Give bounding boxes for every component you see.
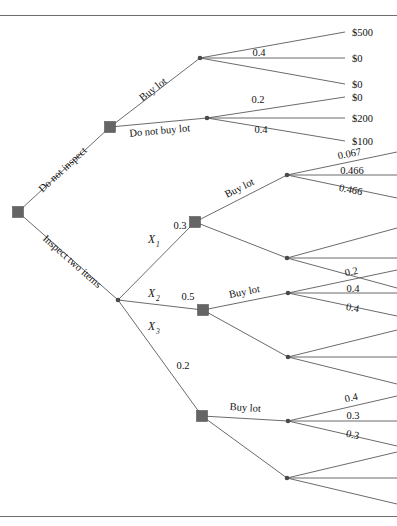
prob-x2: 0.5	[181, 291, 194, 302]
edge-x2-out-c	[288, 293, 397, 316]
label-buy-lot-x2: Buy lot	[228, 283, 261, 300]
payoff-0-b: $0	[352, 79, 363, 90]
edge-x3-out-c	[288, 421, 397, 446]
edge-x2-nobuy-a	[288, 330, 397, 357]
payoff-100: $100	[352, 136, 373, 147]
edge-outcome-100	[207, 118, 345, 141]
label-x2-subscript: 2	[156, 294, 160, 303]
edge-outcome-0b	[200, 58, 345, 84]
prob-x2-c: 0.4	[345, 301, 361, 315]
label-do-not-inspect: Do not inspect	[36, 145, 89, 195]
node-chance-do-not-buy-lot-x1[interactable]	[285, 256, 290, 261]
label-buy-lot-x3: Buy lot	[229, 401, 261, 414]
label-x2-group: X 2	[147, 287, 160, 303]
node-chance-do-not-buy-lot-top[interactable]	[205, 116, 210, 121]
payoff-200: $200	[352, 113, 373, 124]
prob-x1-c: 0.466	[338, 182, 363, 197]
edge-buy-lot-x3	[202, 416, 288, 421]
edge-x3-out-a	[288, 396, 397, 421]
prob-x1-b: 0.466	[340, 165, 364, 176]
node-decision-x3[interactable]	[197, 411, 208, 422]
node-root-decision[interactable]	[13, 207, 24, 218]
prob-top-buy: 0.4	[252, 47, 266, 58]
label-x3-subscript: 3	[155, 327, 160, 336]
payoff-0-a: $0	[352, 53, 363, 64]
edge-do-not-buy-lot-x3	[202, 416, 287, 478]
prob-top-nobuy-b: 0.4	[254, 124, 268, 135]
prob-x3-c: 0.3	[345, 428, 360, 442]
edge-outcome-500	[200, 32, 345, 58]
edge-x1	[118, 222, 195, 300]
prob-x2-b: 0.4	[346, 283, 360, 294]
prob-x1: 0.3	[173, 220, 186, 231]
label-buy-lot-top: Buy lot	[137, 75, 169, 103]
payoff-0-c: $0	[352, 92, 363, 103]
edge-x1-nobuy-a	[287, 228, 397, 258]
prob-x1-a: 0.067	[337, 146, 362, 161]
prob-top-nobuy-a: 0.2	[251, 94, 264, 105]
node-chance-buy-lot-x1[interactable]	[285, 173, 290, 178]
label-x1: X	[147, 233, 156, 245]
label-x1-subscript: 1	[156, 240, 160, 249]
prob-x3-a: 0.4	[344, 391, 360, 405]
node-chance-do-not-buy-lot-x2[interactable]	[286, 355, 291, 360]
edge-do-not-buy-lot-x2	[203, 310, 288, 357]
node-chance-buy-lot-x3[interactable]	[286, 419, 291, 424]
label-x1-group: X 1	[147, 233, 160, 249]
node-chance-buy-lot-top[interactable]	[198, 56, 203, 61]
edge-x3	[118, 300, 202, 416]
label-inspect-two-items: Inspect two items	[41, 233, 104, 290]
label-x3-group: X 3	[147, 320, 160, 336]
edge-x3-nobuy-a	[287, 452, 397, 478]
decision-tree-canvas: Buy lot Do not inspect Inspect two items…	[0, 0, 397, 526]
prob-x3-b: 0.3	[346, 410, 359, 421]
node-chance-inspect[interactable]	[116, 298, 121, 303]
node-decision-x1[interactable]	[190, 217, 201, 228]
edge-x1-nobuy-c	[287, 258, 397, 288]
edge-outcome-0c	[207, 97, 345, 118]
prob-x2-a: 0.2	[344, 265, 359, 278]
node-decision-x2[interactable]	[198, 305, 209, 316]
label-buy-lot-x1: Buy lot	[223, 176, 256, 200]
edge-x2-nobuy-c	[288, 357, 397, 384]
node-decision-do-not-inspect[interactable]	[105, 122, 116, 133]
edge-do-not-buy-lot-x1	[195, 222, 287, 258]
decision-tree-figure: Buy lot Do not inspect Inspect two items…	[0, 0, 397, 526]
edge-x3-nobuy-c	[287, 478, 397, 504]
node-chance-buy-lot-x2[interactable]	[286, 291, 291, 296]
prob-x3: 0.2	[176, 360, 189, 371]
payoff-500: $500	[352, 27, 373, 38]
label-x3: X	[147, 320, 156, 332]
node-chance-do-not-buy-lot-x3[interactable]	[285, 476, 290, 481]
label-x2: X	[147, 287, 156, 299]
